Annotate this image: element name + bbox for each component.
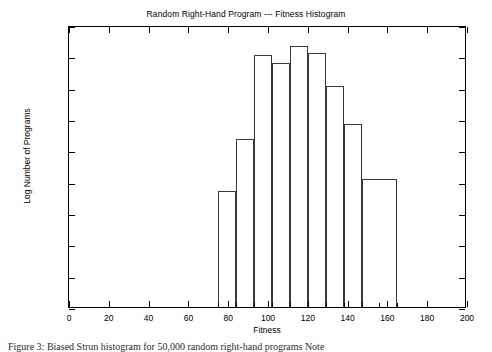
histogram-bar xyxy=(254,55,272,307)
x-axis-tick-label: 120 xyxy=(288,313,328,323)
histogram-bar xyxy=(290,46,308,307)
x-axis-title: Fitness xyxy=(68,325,466,335)
x-axis-minor-tick xyxy=(290,303,291,307)
x-axis-tick xyxy=(348,27,349,33)
x-axis-tick xyxy=(387,27,388,33)
x-axis-tick xyxy=(228,301,229,307)
histogram-bars xyxy=(69,27,465,307)
x-axis-tick-label: 40 xyxy=(129,313,169,323)
x-axis-tick xyxy=(348,301,349,307)
x-axis-minor-tick xyxy=(272,303,273,307)
x-axis-tick xyxy=(268,301,269,307)
histogram-bar xyxy=(362,179,398,307)
y-axis-tick xyxy=(459,278,465,279)
x-axis-tick-label: 200 xyxy=(447,313,487,323)
x-axis-tick xyxy=(467,301,468,307)
y-axis-tick xyxy=(69,215,75,216)
histogram-bar xyxy=(218,191,236,307)
x-axis-tick-label: 80 xyxy=(208,313,248,323)
y-axis-tick xyxy=(459,121,465,122)
y-axis-tick xyxy=(459,152,465,153)
histogram-bar xyxy=(326,86,344,307)
x-axis-tick xyxy=(149,27,150,33)
x-axis-tick xyxy=(427,27,428,33)
x-axis-tick-label: 20 xyxy=(89,313,129,323)
x-axis-tick xyxy=(387,301,388,307)
y-axis-tick xyxy=(69,278,75,279)
x-axis-tick-label: 160 xyxy=(367,313,407,323)
x-axis-tick-label: 100 xyxy=(248,313,288,323)
y-axis-tick xyxy=(459,27,465,28)
x-axis-tick-label: 140 xyxy=(328,313,368,323)
x-axis-tick xyxy=(228,27,229,33)
y-axis-tick xyxy=(459,246,465,247)
x-axis-minor-tick xyxy=(308,303,309,307)
x-axis-minor-tick xyxy=(397,303,398,307)
x-axis-tick xyxy=(427,301,428,307)
y-axis-tick xyxy=(459,90,465,91)
y-axis-tick xyxy=(69,152,75,153)
x-axis-minor-tick xyxy=(344,303,345,307)
y-axis-tick xyxy=(69,58,75,59)
x-axis-tick xyxy=(109,301,110,307)
x-axis-tick xyxy=(467,27,468,33)
x-axis-tick xyxy=(69,27,70,33)
x-axis-minor-tick xyxy=(379,303,380,307)
histogram-bar xyxy=(308,53,326,307)
y-axis-tick xyxy=(69,90,75,91)
x-axis-tick-label: 180 xyxy=(407,313,447,323)
x-axis-tick xyxy=(188,27,189,33)
y-axis-tick xyxy=(69,246,75,247)
y-axis-title: Log Number of Programs xyxy=(22,81,32,231)
chart-title: Random Right-Hand Program --- Fitness Hi… xyxy=(0,9,492,19)
y-axis-tick xyxy=(459,215,465,216)
x-axis-minor-tick xyxy=(236,303,237,307)
y-axis-tick xyxy=(459,58,465,59)
x-axis-minor-tick xyxy=(254,303,255,307)
figure-caption: Figure 3: Biased Strun histogram for 50,… xyxy=(8,341,492,352)
x-axis-tick xyxy=(188,301,189,307)
plot-area: 00.511.522.533.544.502040608010012014016… xyxy=(68,26,466,308)
histogram-bar xyxy=(272,63,290,307)
histogram-bar xyxy=(344,124,362,307)
y-axis-tick xyxy=(69,121,75,122)
x-axis-tick xyxy=(308,27,309,33)
x-axis-tick-label: 60 xyxy=(168,313,208,323)
y-axis-tick xyxy=(459,184,465,185)
x-axis-tick xyxy=(268,27,269,33)
y-axis-tick xyxy=(69,309,75,310)
x-axis-minor-tick xyxy=(218,303,219,307)
histogram-bar xyxy=(236,139,254,307)
x-axis-minor-tick xyxy=(362,303,363,307)
x-axis-minor-tick xyxy=(326,303,327,307)
x-axis-tick xyxy=(69,301,70,307)
x-axis-tick-label: 0 xyxy=(49,313,89,323)
y-axis-tick xyxy=(459,309,465,310)
y-axis-tick xyxy=(69,184,75,185)
x-axis-tick xyxy=(109,27,110,33)
x-axis-tick xyxy=(149,301,150,307)
